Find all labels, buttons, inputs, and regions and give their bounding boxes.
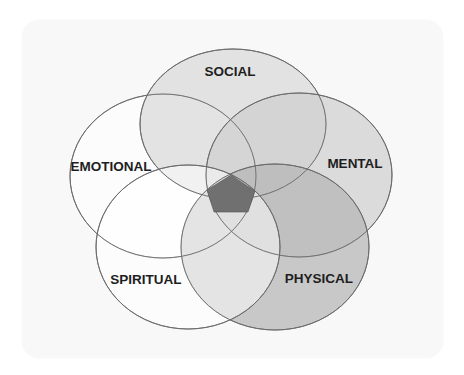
label-spiritual: SPIRITUAL <box>110 272 181 287</box>
label-social: SOCIAL <box>204 64 255 79</box>
venn-diagram: SOCIAL EMOTIONAL MENTAL SPIRITUAL PHYSIC… <box>0 0 464 375</box>
label-emotional: EMOTIONAL <box>71 159 152 174</box>
label-mental: MENTAL <box>327 156 382 171</box>
label-physical: PHYSICAL <box>285 271 353 286</box>
